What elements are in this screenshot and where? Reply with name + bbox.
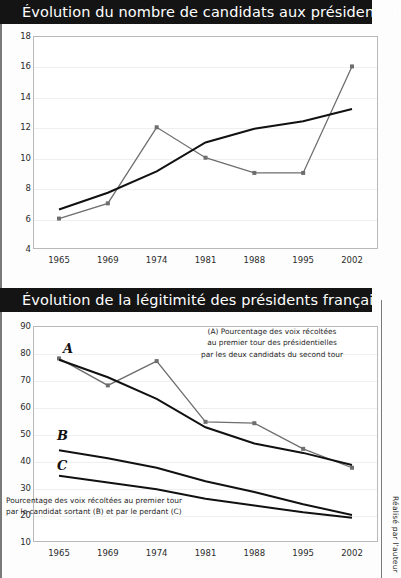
annotation-line: Pourcentage des voix récoltées au premie…: [6, 495, 256, 506]
series-label-a: A: [63, 341, 73, 356]
data-point-marker: [252, 171, 256, 175]
figure-page: Évolution du nombre de candidats aux pré…: [0, 0, 401, 578]
annotation-a: (A) Pourcentage des voix récoltéesau pre…: [172, 326, 372, 360]
data-point-marker: [350, 466, 354, 470]
data-point-marker: [106, 383, 110, 387]
data-point-marker: [204, 156, 208, 160]
data-point-marker: [57, 217, 61, 221]
chart-1-title: Évolution du nombre de candidats aux pré…: [0, 4, 401, 20]
data-point-marker: [301, 171, 305, 175]
annotation-line: (A) Pourcentage des voix récoltées: [172, 326, 372, 337]
chart-1-title-bar: Évolution du nombre de candidats aux pré…: [0, 0, 372, 24]
data-point-marker: [155, 359, 159, 363]
data-point-marker: [301, 447, 305, 451]
annotation-bc: Pourcentage des voix récoltées au premie…: [6, 495, 256, 518]
data-point-marker: [252, 421, 256, 425]
data-point-marker: [106, 201, 110, 205]
data-point-marker: [350, 64, 354, 68]
series-label-c: C: [57, 458, 67, 473]
chart-1: 4681012141618 19651969197419811988199520…: [0, 24, 401, 288]
author-credit: Réalisé par l'auteur: [391, 496, 400, 573]
chart-2: 102030405060708090 196519691974198119881…: [0, 312, 401, 578]
annotation-line: par le candidat sortant (B) et par le pe…: [6, 506, 256, 517]
chart-1-series-canvas: [0, 24, 401, 288]
chart-2-title: Évolution de la légitimité des président…: [0, 292, 381, 308]
annotation-line: au premier tour des présidentielles: [172, 337, 372, 348]
annotation-line: par les deux candidats du second tour: [172, 349, 372, 360]
data-point-marker: [204, 420, 208, 424]
data-point-marker: [155, 125, 159, 129]
chart-2-title-bar: Évolution de la légitimité des président…: [0, 288, 372, 312]
series-label-b: B: [57, 428, 68, 443]
series-line-a-tendance: [59, 360, 352, 465]
